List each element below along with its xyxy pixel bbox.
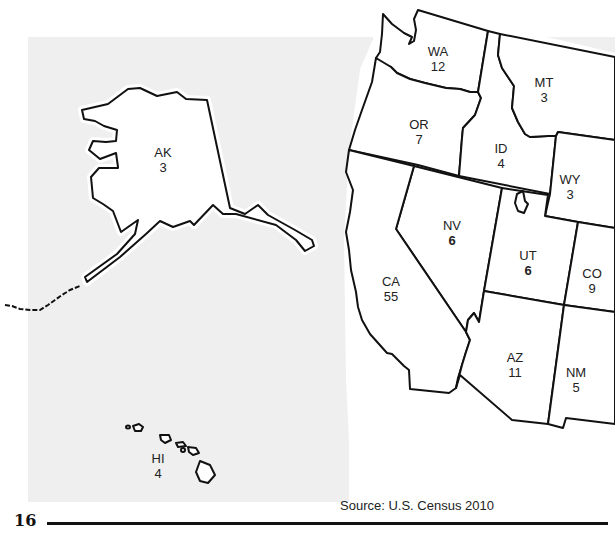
label-ut: UT6: [519, 248, 536, 278]
page-number: 16: [14, 511, 36, 530]
label-id: ID4: [495, 141, 508, 171]
label-mt: MT3: [535, 75, 554, 105]
label-wa: WA12: [428, 44, 448, 74]
footer-rule: [47, 522, 608, 525]
label-or: OR7: [409, 117, 429, 147]
label-ca: CA55: [382, 274, 400, 304]
label-az: AZ11: [507, 350, 524, 380]
aleutian-islands: [5, 286, 80, 310]
label-nv: NV6: [443, 218, 461, 248]
label-hi: HI4: [152, 451, 165, 481]
label-wy: WY3: [560, 172, 581, 202]
label-ak: AK3: [154, 145, 171, 175]
hawaii-islands[interactable]: [126, 424, 215, 483]
label-co: CO9: [582, 266, 602, 296]
source-caption: Source: U.S. Census 2010: [340, 498, 494, 513]
state-alaska[interactable]: [82, 88, 314, 282]
label-nm: NM5: [566, 365, 586, 395]
